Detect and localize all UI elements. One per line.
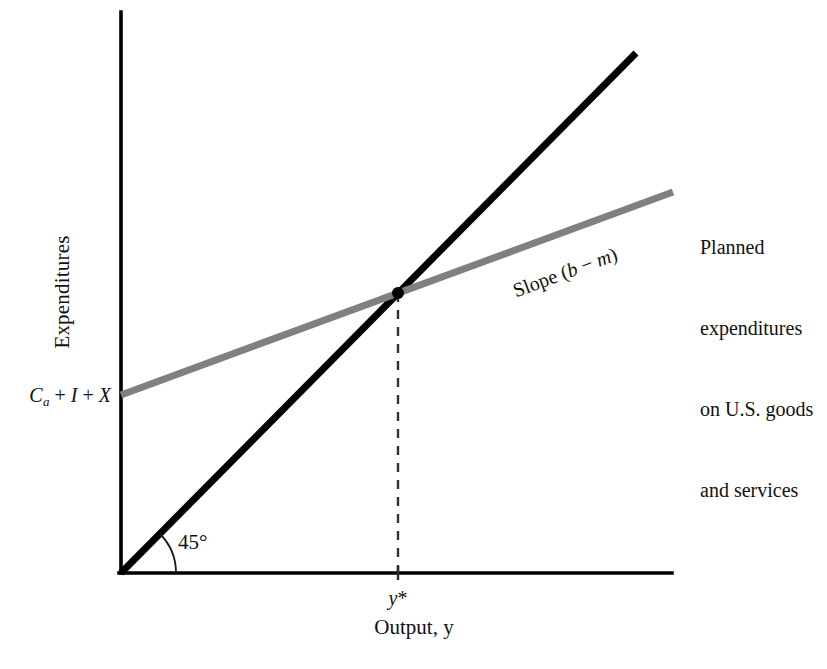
autonomous-expenditure-intercept-label: Ca + I + X	[29, 385, 115, 408]
equilibrium-output-variable: y	[389, 587, 398, 609]
equilibrium-output-label: y*	[389, 588, 408, 608]
y-axis-title: Expenditures	[52, 235, 73, 348]
angle-arc	[160, 534, 176, 573]
planned-note-line-1: Planned	[700, 234, 813, 261]
planned-note-line-2: expenditures	[700, 315, 813, 342]
x-axis-title: Output, y	[374, 617, 453, 638]
planned-note-line-3: on U.S. goods	[700, 396, 813, 423]
forty-five-degree-line	[121, 53, 636, 573]
equilibrium-point	[392, 287, 404, 299]
equilibrium-output-star: *	[397, 587, 407, 609]
planned-expenditure-annotation: Planned expenditures on U.S. goods and s…	[700, 180, 813, 558]
planned-note-line-4: and services	[700, 477, 813, 504]
intercept-term-c: C	[29, 384, 42, 406]
intercept-operator-2: +	[78, 384, 99, 406]
keynesian-cross-figure: Expenditures Output, y y* Ca + I + X 45°…	[0, 0, 827, 669]
intercept-term-x: X	[99, 384, 111, 406]
intercept-operator-1: +	[50, 384, 71, 406]
forty-five-degree-angle-label: 45°	[178, 532, 207, 553]
